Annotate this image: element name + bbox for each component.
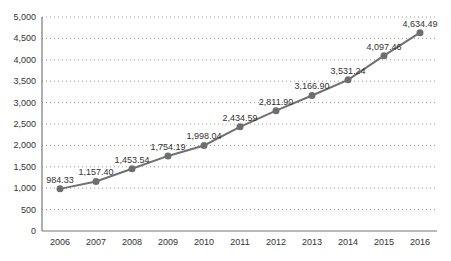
data-point: [273, 107, 280, 114]
data-label: 4,634.49: [402, 19, 437, 29]
data-point: [93, 178, 100, 185]
x-axis-ticks: 2006200720082009201020112012201320142015…: [50, 237, 430, 247]
data-label: 4,097.46: [366, 42, 401, 52]
y-tick-label: 3,000: [13, 98, 36, 108]
data-point: [417, 29, 424, 36]
data-labels: 984.331,157.401,453.541,754.191,998.042,…: [46, 19, 437, 185]
y-tick-label: 2,500: [13, 119, 36, 129]
data-point: [345, 76, 352, 83]
x-tick-label: 2016: [410, 237, 430, 247]
y-tick-label: 2,000: [13, 140, 36, 150]
x-tick-label: 2015: [374, 237, 394, 247]
data-label: 1,157.40: [78, 167, 113, 177]
data-label: 1,453.54: [114, 155, 149, 165]
y-tick-label: 5,000: [13, 12, 36, 22]
data-point: [237, 123, 244, 130]
x-tick-label: 2012: [266, 237, 286, 247]
data-label: 1,998.04: [186, 131, 221, 141]
line-chart: 05001,0001,5002,0002,5003,0003,5004,0004…: [0, 0, 451, 261]
data-point: [57, 185, 64, 192]
data-point: [165, 152, 172, 159]
data-label: 1,754.19: [150, 142, 185, 152]
y-tick-label: 3,500: [13, 76, 36, 86]
x-tick-label: 2013: [302, 237, 322, 247]
data-label: 2,811.90: [259, 97, 293, 107]
data-label: 3,166.90: [294, 81, 329, 91]
x-tick-label: 2014: [338, 237, 358, 247]
y-tick-label: 0: [31, 226, 36, 236]
x-tick-label: 2006: [50, 237, 70, 247]
x-tick-label: 2011: [230, 237, 249, 247]
data-point: [201, 142, 208, 149]
data-label: 3,531.24: [330, 66, 365, 76]
y-axis-ticks: 05001,0001,5002,0002,5003,0003,5004,0004…: [13, 12, 36, 236]
x-tick-label: 2008: [122, 237, 142, 247]
series-line: [60, 33, 420, 189]
y-tick-label: 1,000: [13, 183, 36, 193]
data-label: 2,434.59: [222, 113, 257, 123]
y-tick-label: 500: [21, 205, 36, 215]
data-point: [381, 52, 388, 59]
x-tick-label: 2010: [194, 237, 214, 247]
y-tick-label: 1,500: [13, 162, 36, 172]
data-point: [309, 92, 316, 99]
x-tick-label: 2009: [158, 237, 178, 247]
data-point: [129, 165, 136, 172]
y-tick-label: 4,500: [13, 33, 36, 43]
data-label: 984.33: [46, 175, 74, 185]
x-tick-label: 2007: [86, 237, 106, 247]
y-tick-label: 4,000: [13, 55, 36, 65]
